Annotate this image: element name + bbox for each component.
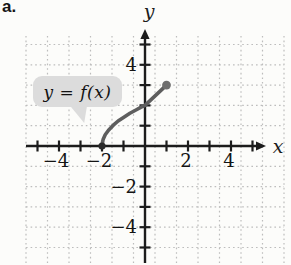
y-axis-label: y [143, 0, 155, 22]
function-graph: −4−2244−2−4 y x [0, 0, 291, 265]
x-tick-label: −4 [43, 150, 70, 171]
y-tick-label: 4 [126, 54, 137, 75]
x-axis-arrow [256, 141, 266, 150]
x-axis-label: x [273, 135, 284, 157]
callout-text: y = f(x) [44, 82, 112, 102]
x-tick-label: −2 [86, 150, 113, 171]
curve-end-dot [162, 81, 171, 90]
y-tick-label: −2 [110, 176, 137, 197]
y-tick-label: −4 [110, 216, 137, 237]
x-tick-label: 4 [223, 150, 234, 171]
curve-start-dot [98, 142, 105, 149]
function-callout: y = f(x) [33, 76, 122, 107]
x-tick-label: 2 [180, 150, 191, 171]
y-axis-arrow [140, 29, 149, 39]
